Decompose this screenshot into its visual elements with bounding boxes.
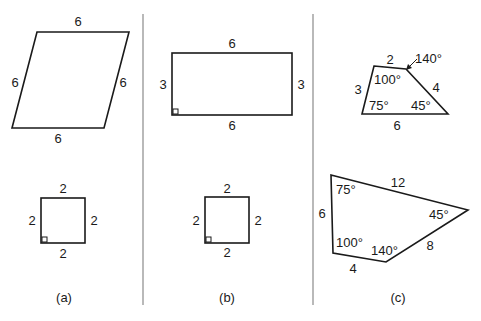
large-quad-angle-bottom-right: 140° [371,243,398,258]
caption-b: (b) [219,290,235,305]
right-angle-marker [42,237,47,242]
square-a-right-label: 2 [90,213,97,228]
caption-a: (a) [56,290,72,305]
square-a-left-label: 2 [28,213,35,228]
square-b [205,197,249,243]
large-quad-left-label: 6 [318,206,325,221]
parallelogram [12,32,129,128]
square-a-bottom-label: 2 [59,246,66,261]
square-b-top-label: 2 [223,181,230,196]
similarity-diagram: 6 6 6 6 2 2 2 2 (a) 6 3 3 6 2 2 2 2 (b) … [0,0,481,321]
square-b-right-label: 2 [254,213,261,228]
small-quad-angle-bottom-right: 45° [411,98,431,113]
large-quad-angle-right: 45° [429,207,449,222]
parallelogram-right-label: 6 [119,75,126,90]
square-a [41,198,85,243]
small-quad-top-label: 2 [386,52,393,67]
right-angle-marker [173,109,178,114]
right-angle-marker [206,237,211,242]
panel-a: 6 6 6 6 2 2 2 2 (a) [11,14,129,305]
square-b-bottom-label: 2 [223,245,230,260]
parallelogram-bottom-label: 6 [54,131,61,146]
small-quad-left-label: 3 [354,82,361,97]
large-quad-top-label: 12 [391,175,405,190]
parallelogram-top-label: 6 [74,14,81,29]
rectangle-left-label: 3 [159,77,166,92]
rectangle-top-label: 6 [228,36,235,51]
small-quad-angle-bottom-left: 75° [369,98,389,113]
small-quad-angle-top-left: 100° [374,72,401,87]
large-quad-angle-top-left: 75° [336,182,356,197]
parallelogram-left-label: 6 [11,75,18,90]
small-quad-bottom-label: 6 [393,118,400,133]
panel-c: 2 3 4 6 100° 140° 45° 75° 12 6 8 4 75° 4… [318,51,468,305]
square-a-top-label: 2 [59,181,66,196]
small-quad-angle-top-right: 140° [415,51,442,66]
square-b-left-label: 2 [192,213,199,228]
large-quad-angle-bottom-left: 100° [336,235,363,250]
large-quad-lower-right-label: 8 [426,238,433,253]
rectangle-right-label: 3 [297,77,304,92]
panel-b: 6 3 3 6 2 2 2 2 (b) [159,36,304,305]
small-quad-right-label: 4 [432,80,439,95]
rectangle-bottom-label: 6 [228,118,235,133]
large-quad-bottom-label: 4 [349,261,356,276]
caption-c: (c) [390,290,405,305]
rectangle [172,53,292,115]
